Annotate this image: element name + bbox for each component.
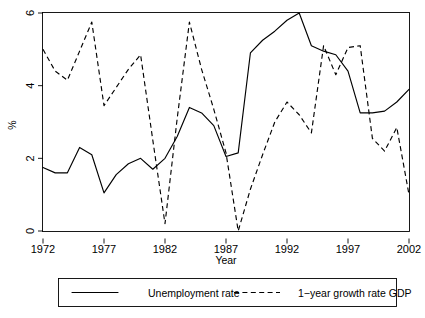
- chart-svg: 0246 1972197719821987199219972002 % Year…: [0, 0, 425, 318]
- y-tick-label: 4: [24, 83, 36, 89]
- x-axis-title: Year: [215, 254, 237, 266]
- chart-figure: 0246 1972197719821987199219972002 % Year…: [0, 0, 425, 318]
- legend-label-1: Unemployment rate: [148, 287, 240, 299]
- x-tick-label: 1997: [336, 243, 360, 255]
- legend-label-2: 1−year growth rate GDP: [298, 287, 412, 299]
- x-tick-label: 1972: [31, 243, 55, 255]
- x-tick-label: 1992: [275, 243, 299, 255]
- y-tick-label: 0: [24, 228, 36, 234]
- chart-background: [0, 0, 425, 318]
- x-tick-label: 1982: [153, 243, 177, 255]
- y-axis-title: %: [6, 120, 18, 129]
- y-tick-label: 2: [24, 155, 36, 161]
- x-tick-label: 1977: [92, 243, 116, 255]
- y-tick-label: 6: [24, 10, 36, 16]
- x-tick-label: 2002: [397, 243, 421, 255]
